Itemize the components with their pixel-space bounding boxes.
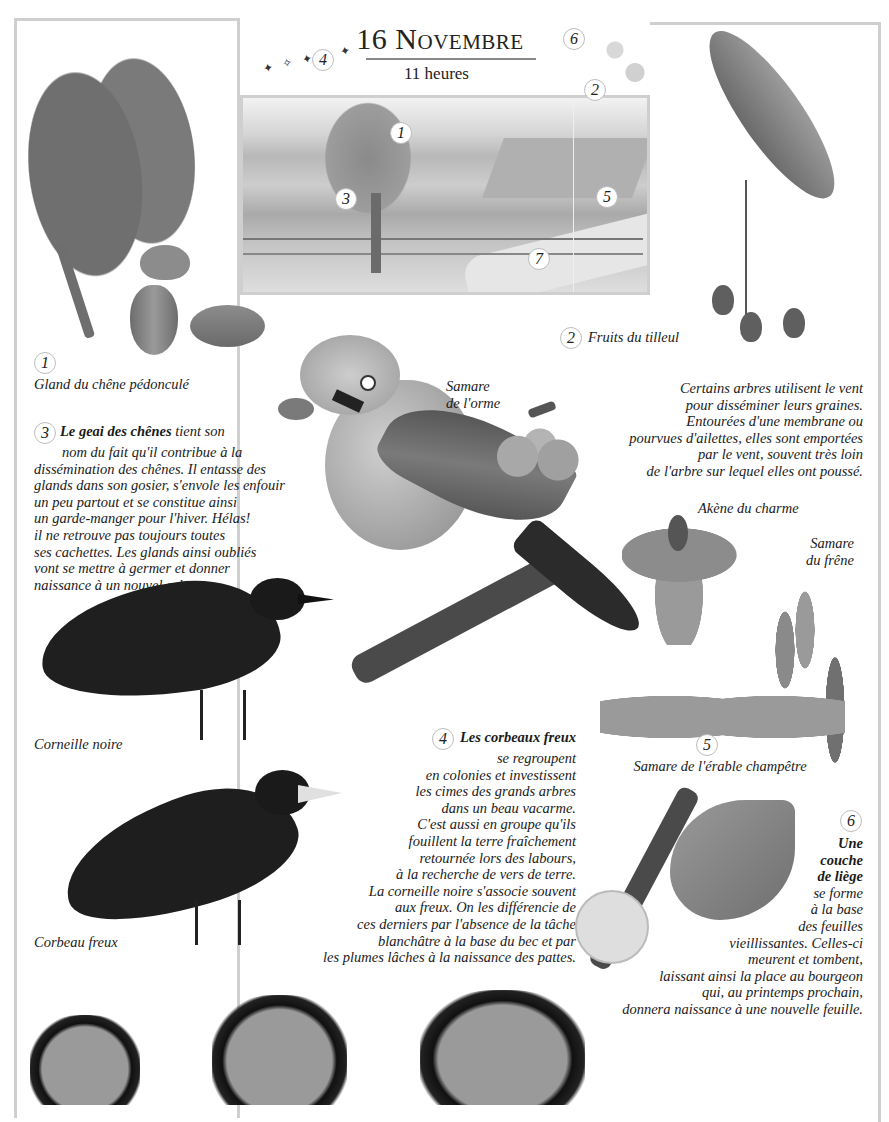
acorn-cup-illustration xyxy=(140,245,190,280)
jay-heading: Le geai des chênes xyxy=(60,423,172,439)
title-underline xyxy=(366,58,536,60)
rook-legs-illustration xyxy=(195,900,241,945)
caption-number-4: 4 xyxy=(432,728,454,750)
linden-branch-illustration xyxy=(600,20,650,95)
caption-elm: Samarede l'orme xyxy=(446,378,500,412)
carrion-crow-head-illustration xyxy=(250,578,305,620)
caption-rook: Corbeau freux xyxy=(34,934,118,951)
page-subtitle-time: 11 heures xyxy=(404,64,469,84)
page-title: 16 Novembre xyxy=(345,22,535,56)
acorn-illustration xyxy=(190,305,265,347)
dormouse-den-illustration xyxy=(420,990,585,1105)
title-day: 16 xyxy=(356,22,387,55)
dormouse-den-illustration xyxy=(30,1015,140,1105)
caption-linden: Fruits du tilleul xyxy=(588,329,679,346)
rook-paragraph: 4Les corbeaux freux se regroupent en col… xyxy=(268,728,576,966)
rook-heading: Les corbeaux freux xyxy=(460,729,576,745)
caption-carrion-crow: Corneille noire xyxy=(34,736,122,753)
dormouse-den-illustration xyxy=(212,995,347,1105)
marker-5: 5 xyxy=(596,186,618,208)
caption-number-1: 1 xyxy=(34,352,56,374)
title-month: Novembre xyxy=(395,22,523,55)
caption-maple: Samare de l'érable champêtre xyxy=(610,758,830,775)
linden-fruit-illustration xyxy=(783,308,805,338)
linden-fruit-illustration xyxy=(712,285,734,315)
marker-7: 7 xyxy=(528,248,550,270)
cork-layer-paragraph: Une couche de liège se forme à la base d… xyxy=(580,835,863,1018)
maple-samara-illustration xyxy=(600,685,845,740)
marker-3: 3 xyxy=(335,188,357,210)
marker-2: 2 xyxy=(584,79,606,101)
landscape-illustration xyxy=(240,95,650,295)
caption-acorn: Gland du chêne pédonculé xyxy=(34,376,189,393)
caption-number-5: 5 xyxy=(696,734,718,756)
linden-fruit-illustration xyxy=(740,312,762,342)
marker-6: 6 xyxy=(563,28,585,50)
fence-line xyxy=(243,238,643,240)
road-shape xyxy=(461,197,650,295)
carrion-crow-beak-illustration xyxy=(298,594,334,604)
hornbeam-nut-illustration xyxy=(668,515,688,551)
oak-trunk xyxy=(371,193,381,273)
carrion-crow-legs-illustration xyxy=(200,690,246,740)
flying-rooks-illustration: ✦ ✧ ✦ ✧ ✦ xyxy=(262,43,355,76)
wind-dispersal-paragraph: Certains arbres utilisent le vent pour d… xyxy=(585,380,863,480)
marker-4: 4 xyxy=(312,49,334,71)
caption-number-2: 2 xyxy=(560,327,582,349)
acorn-in-beak-illustration xyxy=(278,398,314,420)
acorn-illustration xyxy=(130,285,178,355)
page-fold-line xyxy=(573,98,574,295)
field-shape xyxy=(482,138,650,198)
linden-stem-illustration xyxy=(745,180,747,330)
caption-number-6: 6 xyxy=(840,810,862,832)
elm-samara-illustration xyxy=(495,415,585,490)
caption-number-3: 3 xyxy=(34,422,56,444)
caption-hornbeam: Akène du charme xyxy=(698,500,799,517)
fence-line xyxy=(243,253,643,255)
marker-1: 1 xyxy=(390,122,412,144)
jay-eye-illustration xyxy=(360,375,376,391)
jay-paragraph: 3Le geai des chênes tient son nom du fai… xyxy=(34,422,314,593)
